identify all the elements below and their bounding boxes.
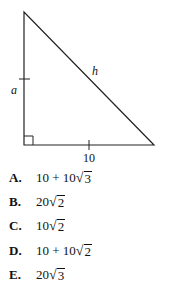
choice-e[interactable]: E. 20√3 (9, 265, 65, 285)
label-hypotenuse: h (92, 65, 98, 77)
sqrt-icon: √3 (76, 171, 92, 185)
triangle-outline (24, 12, 154, 145)
choice-value-prefix: 10 + 10 (36, 170, 76, 186)
sqrt-icon: √2 (76, 244, 92, 258)
choice-letter: E. (9, 267, 36, 283)
sqrt-icon: √2 (49, 195, 65, 209)
choice-letter: B. (9, 194, 36, 210)
choice-b[interactable]: B. 20√2 (9, 192, 65, 212)
choice-value-prefix: 20 (36, 194, 49, 210)
choice-value-prefix: 10 + 10 (36, 243, 76, 259)
label-vertical-leg: a (11, 84, 17, 96)
sqrt-icon: √2 (49, 219, 65, 233)
choice-letter: C. (9, 218, 36, 234)
choice-letter: D. (9, 243, 36, 259)
choice-letter: A. (9, 170, 36, 186)
choice-a[interactable]: A. 10 + 10√3 (9, 168, 92, 188)
choice-value-prefix: 10 (36, 218, 49, 234)
right-triangle-figure: a h 10 (0, 0, 171, 165)
sqrt-icon: √3 (49, 268, 65, 282)
choice-value-prefix: 20 (36, 267, 49, 283)
choice-c[interactable]: C. 10√2 (9, 216, 65, 236)
choice-d[interactable]: D. 10 + 10√2 (9, 241, 92, 261)
label-horizontal-leg: 10 (83, 152, 95, 164)
triangle-diagram (0, 0, 171, 165)
right-angle-marker (24, 136, 33, 145)
